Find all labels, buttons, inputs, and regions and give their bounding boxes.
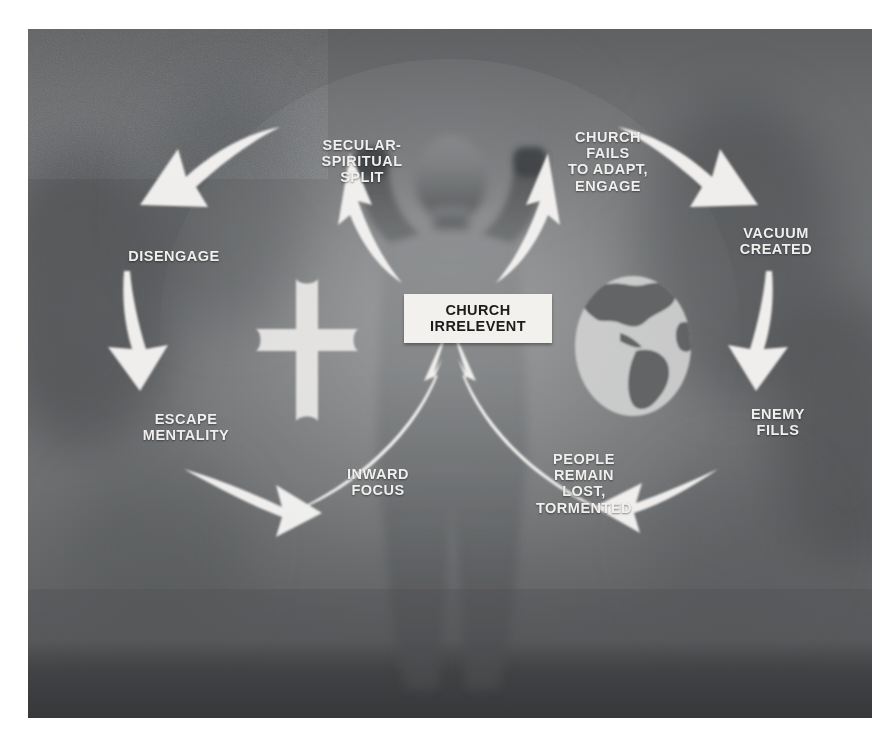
node-disengage[interactable]: DISENGAGE <box>111 248 237 264</box>
background-blotch <box>148 89 308 329</box>
page-canvas: CHURCH IRRELEVENT SECULAR- SPIRITUAL SPL… <box>0 0 895 742</box>
node-church-fails-to-adapt-engage[interactable]: CHURCH FAILS TO ADAPT, ENGAGE <box>549 129 667 194</box>
center-label-line-2: IRRELEVENT <box>430 319 526 334</box>
node-escape-mentality[interactable]: ESCAPE MENTALITY <box>126 411 246 443</box>
center-label-line-1: CHURCH <box>445 303 510 318</box>
node-secular-spiritual-split[interactable]: SECULAR- SPIRITUAL SPLIT <box>302 137 422 186</box>
background-blotch <box>648 459 818 629</box>
poster-image: CHURCH IRRELEVENT SECULAR- SPIRITUAL SPL… <box>28 29 872 718</box>
node-inward-focus[interactable]: INWARD FOCUS <box>327 466 429 498</box>
background-blotch <box>68 459 248 639</box>
floor-shadow-band <box>28 640 872 718</box>
center-label-church-irrelevent[interactable]: CHURCH IRRELEVENT <box>404 294 552 343</box>
node-people-remain-lost-tormented[interactable]: PEOPLE REMAIN LOST, TORMENTED <box>523 451 645 516</box>
node-enemy-fills[interactable]: ENEMY FILLS <box>730 406 826 438</box>
node-vacuum-created[interactable]: VACUUM CREATED <box>722 225 830 257</box>
